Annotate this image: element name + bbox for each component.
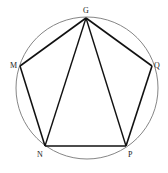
segment-QP — [126, 66, 152, 146]
circumscribed-circle — [16, 17, 158, 159]
geometry-diagram: G Q P N M — [0, 0, 168, 173]
segment-GQ — [86, 18, 152, 66]
label-M: M — [10, 61, 17, 70]
segment-GP — [86, 18, 126, 146]
label-N: N — [37, 150, 43, 159]
label-P: P — [128, 150, 133, 159]
label-Q: Q — [154, 61, 160, 70]
label-G: G — [83, 6, 89, 15]
segment-GN — [45, 18, 86, 146]
